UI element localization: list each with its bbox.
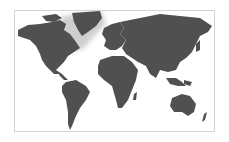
world-map (0, 0, 229, 142)
south-america (62, 80, 90, 130)
australia (170, 94, 196, 116)
continents (18, 11, 212, 130)
new-zealand (202, 112, 207, 122)
africa (98, 56, 138, 108)
